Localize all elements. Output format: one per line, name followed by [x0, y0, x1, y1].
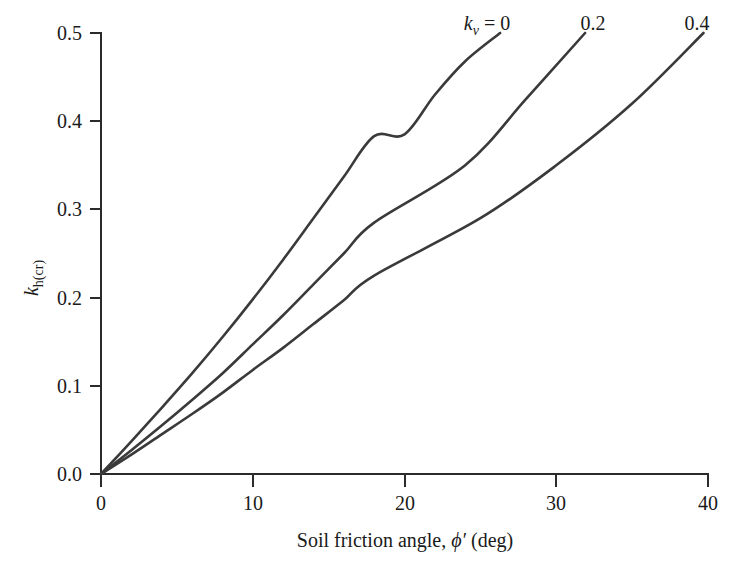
x-tick-labels: 0 10 20 30 40: [96, 492, 718, 514]
data-curve-kv-0: [101, 33, 500, 474]
svg-text:kh(cr): kh(cr): [20, 260, 47, 296]
x-axis-title-symbol: ϕ′: [451, 529, 466, 552]
x-tick-label-2: 20: [395, 492, 415, 514]
y-tick-label-0: 0.0: [57, 463, 82, 485]
x-tick-label-1: 10: [243, 492, 263, 514]
x-axis-title-prefix: Soil friction angle,: [297, 529, 451, 552]
y-tick-label-1: 0.1: [57, 375, 82, 397]
annotation-kv-02: 0.2: [581, 12, 606, 34]
x-tick-label-3: 30: [546, 492, 566, 514]
y-tick-labels: 0.0 0.1 0.2 0.3 0.4 0.5: [57, 22, 82, 485]
y-tick-marks: [90, 33, 101, 474]
x-tick-label-4: 40: [698, 492, 718, 514]
x-axis-title-suffix: (deg): [466, 529, 513, 552]
chart-canvas: 0.0 0.1 0.2 0.3 0.4 0.5 0 10 20 30 40 kh…: [0, 0, 739, 562]
annotation-kv-0: kv = 0: [464, 12, 510, 38]
data-curves-group: [101, 33, 703, 474]
axes-group: [101, 33, 708, 474]
y-tick-label-2: 0.2: [57, 287, 82, 309]
y-tick-label-4: 0.4: [57, 110, 82, 132]
annotation-kv-04: 0.4: [685, 12, 710, 34]
y-tick-label-3: 0.3: [57, 198, 82, 220]
figure-root: 0.0 0.1 0.2 0.3 0.4 0.5 0 10 20 30 40 kh…: [0, 0, 739, 562]
annotation-kv-0-rest: = 0: [479, 12, 510, 34]
y-tick-label-5: 0.5: [57, 22, 82, 44]
data-curve-kv-02: [101, 33, 585, 474]
data-curve-kv-04: [101, 33, 703, 474]
y-axis-title: kh(cr): [20, 260, 47, 296]
x-tick-label-0: 0: [96, 492, 106, 514]
y-axis-title-sub: h(cr): [31, 260, 47, 288]
x-tick-marks: [101, 474, 708, 487]
x-axis-title: Soil friction angle, ϕ′ (deg): [297, 529, 513, 552]
